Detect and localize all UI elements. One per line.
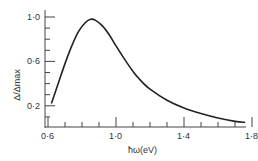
y-axis-label: Δ/Δmax <box>12 69 22 101</box>
x-tick-label: 0·6 <box>41 131 54 141</box>
x-axis-label: ħω(eV) <box>128 145 157 155</box>
x-tick-label: 1·0 <box>109 131 122 141</box>
chart: 0·61·01·41·80·20·61·0 ħω(eV) Δ/Δmax <box>0 0 258 161</box>
x-tick-label: 1·8 <box>245 131 258 141</box>
y-tick-label: 0·6 <box>27 56 40 66</box>
y-tick-label: 1·0 <box>27 12 40 22</box>
data-curve <box>51 19 245 122</box>
y-tick-label: 0·2 <box>27 101 40 111</box>
x-tick-label: 1·4 <box>177 131 190 141</box>
